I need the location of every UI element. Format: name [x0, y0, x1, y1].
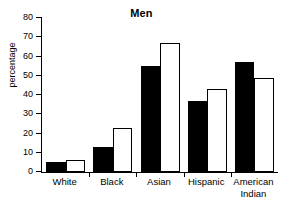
y-axis-label: percentage [7, 25, 17, 105]
y-tick-label-30: 30 [23, 107, 33, 119]
bar-american-indian-open [254, 78, 274, 172]
bar-asian-open [160, 43, 180, 172]
y-tick-label-60: 60 [23, 50, 33, 62]
y-tick-label-0: 0 [28, 165, 33, 177]
bar-black-open [113, 128, 133, 172]
bar-white-open [66, 160, 86, 172]
x-label-black: Black [88, 176, 135, 188]
bar-black-filled [93, 147, 113, 172]
bar-hispanic-filled [188, 101, 208, 172]
bar-american-indian-filled [235, 62, 255, 172]
bar-hispanic-open [207, 89, 227, 172]
plot-area: 01020304050607080 [41, 18, 278, 173]
x-label-white: White [41, 176, 88, 188]
y-tick-label-40: 40 [23, 88, 33, 100]
y-tick-label-50: 50 [23, 69, 33, 81]
y-tick-label-10: 10 [23, 146, 33, 158]
bars-layer [42, 18, 278, 172]
x-label-hispanic: Hispanic [183, 176, 230, 188]
bar-asian-filled [141, 66, 161, 172]
bar-chart: Men percentage 01020304050607080 WhiteBl… [0, 0, 283, 210]
x-label-asian: Asian [135, 176, 182, 188]
y-tick-label-70: 70 [23, 30, 33, 42]
y-tick-label-20: 20 [23, 127, 33, 139]
bar-white-filled [46, 162, 66, 172]
x-axis-labels: WhiteBlackAsianHispanicAmerican Indian [41, 176, 277, 208]
x-label-american-indian: American Indian [230, 176, 277, 200]
y-tick-label-80: 80 [23, 11, 33, 23]
